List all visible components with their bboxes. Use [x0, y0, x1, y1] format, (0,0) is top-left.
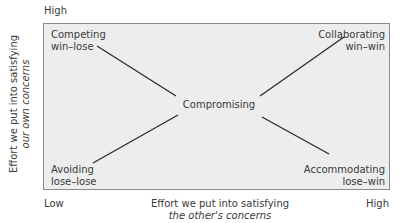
competing-connector: [97, 46, 176, 96]
x-axis-high-label: High: [366, 198, 389, 210]
accommodating-outcome: lose–win: [304, 176, 385, 188]
collaborating-outcome: win–win: [318, 41, 385, 53]
collaborating-label: Collaborating: [318, 29, 385, 41]
competing-outcome: win–lose: [51, 41, 106, 53]
x-axis-title: Effort we put into satisfying the other'…: [140, 198, 300, 222]
x-axis-low-label: Low: [44, 198, 64, 210]
x-axis-title-line2: the other's concerns: [140, 210, 300, 222]
competing-node: Competing win–lose: [51, 29, 106, 53]
avoiding-node: Avoiding lose–lose: [51, 164, 97, 188]
accommodating-node: Accommodating lose–win: [304, 164, 385, 188]
compromising-label: Compromising: [181, 99, 257, 111]
collaborating-node: Collaborating win–win: [318, 29, 385, 53]
avoiding-outcome: lose–lose: [51, 176, 97, 188]
avoiding-label: Avoiding: [51, 164, 97, 176]
avoiding-connector: [93, 115, 178, 163]
competing-label: Competing: [51, 29, 106, 41]
x-axis-title-line1: Effort we put into satisfying: [140, 198, 300, 210]
accommodating-connector: [262, 117, 329, 154]
compromising-node: Compromising: [181, 99, 257, 111]
accommodating-label: Accommodating: [304, 164, 385, 176]
